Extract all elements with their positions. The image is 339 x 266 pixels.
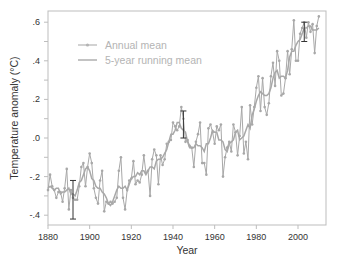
- data-point: [218, 129, 221, 132]
- y-tick-label: .6: [32, 17, 40, 27]
- data-point: [278, 60, 281, 63]
- data-point: [138, 181, 141, 184]
- data-point: [257, 75, 260, 78]
- data-point: [78, 185, 81, 188]
- data-point: [193, 166, 196, 169]
- x-tick-label: 1940: [163, 232, 183, 242]
- data-point: [145, 171, 148, 174]
- data-point: [151, 158, 154, 161]
- data-point: [59, 191, 62, 194]
- data-point: [261, 77, 264, 80]
- data-point: [149, 195, 152, 198]
- data-point: [136, 179, 139, 182]
- data-point: [315, 25, 318, 28]
- data-point: [301, 27, 304, 30]
- data-point: [95, 197, 98, 200]
- data-point: [65, 168, 68, 171]
- svg-text:Annual mean: Annual mean: [105, 39, 167, 51]
- data-point: [226, 146, 229, 149]
- data-point: [159, 154, 162, 157]
- data-point: [178, 125, 181, 128]
- data-point: [220, 123, 223, 126]
- data-point: [184, 141, 187, 144]
- data-point: [140, 173, 143, 176]
- data-point: [86, 166, 89, 169]
- data-point: [255, 87, 258, 90]
- data-point: [47, 189, 50, 192]
- data-point: [115, 197, 118, 200]
- data-point: [311, 23, 314, 26]
- data-point: [122, 197, 125, 200]
- data-point: [280, 94, 283, 97]
- data-point: [88, 152, 91, 155]
- data-point: [297, 60, 300, 63]
- error-bars: [70, 22, 307, 219]
- legend-item-running-mean: 5-year running mean: [78, 54, 202, 66]
- y-tick-label: -.2: [29, 172, 40, 182]
- data-point: [234, 131, 237, 134]
- data-point: [103, 210, 106, 213]
- data-point: [180, 106, 183, 109]
- x-tick-label: 1880: [38, 232, 58, 242]
- data-point: [172, 121, 175, 124]
- x-axis: 1880190019201940196019802000: [38, 225, 308, 242]
- data-point: [268, 102, 271, 105]
- data-point: [101, 170, 104, 173]
- data-point: [240, 106, 243, 109]
- data-point: [128, 179, 131, 182]
- data-point: [118, 170, 121, 173]
- data-point: [80, 166, 83, 169]
- x-tick-label: 1960: [205, 232, 225, 242]
- data-point: [213, 142, 216, 145]
- x-tick-label: 2000: [288, 232, 308, 242]
- data-point: [265, 114, 268, 117]
- data-point: [230, 150, 233, 153]
- data-point: [97, 202, 100, 205]
- data-point: [299, 32, 302, 35]
- data-point: [249, 104, 252, 107]
- data-point: [222, 175, 225, 178]
- legend-item-annual-mean: Annual mean: [78, 39, 167, 51]
- data-point: [263, 106, 266, 109]
- data-point: [309, 31, 312, 34]
- data-point: [188, 144, 191, 147]
- data-point: [109, 200, 112, 203]
- x-tick-label: 1920: [121, 232, 141, 242]
- data-point: [215, 125, 218, 128]
- data-point: [111, 202, 114, 205]
- data-point: [224, 156, 227, 159]
- data-point: [228, 141, 231, 144]
- data-point: [272, 61, 275, 64]
- data-point: [247, 158, 250, 161]
- data-point: [76, 198, 79, 201]
- data-point: [199, 121, 202, 124]
- data-point: [174, 125, 177, 128]
- data-point: [276, 50, 279, 53]
- data-point: [132, 160, 135, 163]
- data-point: [120, 156, 123, 159]
- data-point: [155, 154, 158, 157]
- data-point: [293, 19, 296, 22]
- data-point: [153, 148, 156, 151]
- data-point: [107, 202, 110, 205]
- data-point: [284, 77, 287, 80]
- x-tick-label: 1900: [80, 232, 100, 242]
- data-point: [170, 139, 173, 142]
- data-point: [51, 185, 54, 188]
- data-point: [243, 152, 246, 155]
- data-point: [68, 208, 71, 211]
- data-point: [197, 133, 200, 136]
- data-point: [286, 50, 289, 53]
- data-point: [93, 187, 96, 190]
- data-point: [124, 208, 127, 211]
- y-tick-label: .4: [32, 56, 40, 66]
- plot-frame: [48, 11, 326, 225]
- data-point: [134, 183, 137, 186]
- data-point: [313, 52, 316, 55]
- data-point: [61, 200, 64, 203]
- data-point: [288, 73, 291, 76]
- data-point: [130, 177, 133, 180]
- x-axis-label: Year: [176, 244, 198, 256]
- data-point: [290, 48, 293, 51]
- data-point: [232, 123, 235, 126]
